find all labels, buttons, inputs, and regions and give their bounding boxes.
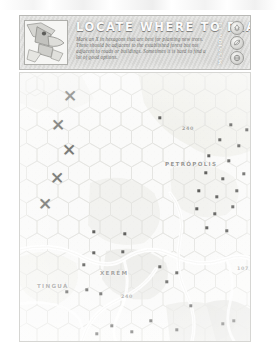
puzzle-page: LOCATE WHERE TO PLANT TREES Mark an X in… xyxy=(0,0,277,355)
map-marker xyxy=(204,171,207,174)
x-mark-2[interactable]: ✕ xyxy=(51,117,65,134)
map-marker xyxy=(231,205,234,208)
x-mark-5[interactable]: ✕ xyxy=(38,196,52,213)
map-marker xyxy=(213,212,216,215)
map-marker xyxy=(95,332,98,335)
badge-group xyxy=(226,19,247,66)
mission-banner: LOCATE WHERE TO PLANT TREES Mark an X in… xyxy=(19,15,251,70)
mission-label: MISSION 11 xyxy=(217,21,223,65)
instructions-text: Mark an X in hexagons that are best for … xyxy=(76,36,212,60)
map-marker xyxy=(218,138,221,141)
tree-badge[interactable] xyxy=(230,21,244,35)
map-marker xyxy=(121,250,124,253)
map-marker xyxy=(242,172,245,175)
page-top-edge-strip xyxy=(0,0,277,10)
map-marker xyxy=(195,207,198,210)
map-marker xyxy=(245,128,248,131)
x-mark-3[interactable]: ✕ xyxy=(62,142,76,159)
map-marker xyxy=(165,280,168,283)
road-number-240-south: 240 xyxy=(121,294,133,299)
mission-strip: MISSION 11 xyxy=(214,21,225,64)
map-marker xyxy=(229,123,232,126)
xerem-label: XERÉM xyxy=(100,270,128,276)
map-marker xyxy=(175,271,178,274)
map-terrain-layer xyxy=(20,73,250,341)
map-marker xyxy=(82,263,85,266)
map-marker xyxy=(205,226,208,229)
map-marker xyxy=(175,328,178,331)
map-marker xyxy=(123,232,126,235)
petropolis-label: PETRÓPOLIS xyxy=(165,161,217,167)
map-marker xyxy=(232,319,235,322)
map-marker xyxy=(149,319,152,322)
tingua-label: TINGUÁ xyxy=(37,283,69,289)
map-marker xyxy=(158,116,161,119)
map-marker xyxy=(158,265,161,268)
map-marker xyxy=(92,230,95,233)
map-marker xyxy=(85,288,88,291)
map-marker xyxy=(227,159,230,162)
map-marker xyxy=(99,292,102,295)
x-mark-1[interactable]: ✕ xyxy=(63,88,77,105)
map-marker xyxy=(225,229,228,232)
road-number-107: 107 xyxy=(237,266,249,271)
map-marker xyxy=(237,144,240,147)
hex-map[interactable]: ✕ ✕ ✕ ✕ ✕ xyxy=(19,72,251,342)
map-marker xyxy=(207,154,210,157)
page-title: LOCATE WHERE TO PLANT TREES xyxy=(76,21,212,33)
road-number-240-north: 240 xyxy=(182,126,194,131)
map-marker xyxy=(110,324,113,327)
map-marker xyxy=(92,251,95,254)
map-marker xyxy=(221,177,224,180)
toucan-mascot-icon xyxy=(24,20,68,65)
map-marker xyxy=(65,290,68,293)
map-marker xyxy=(189,304,192,307)
map-marker xyxy=(197,189,200,192)
map-marker xyxy=(221,322,224,325)
banner-text-block: LOCATE WHERE TO PLANT TREES Mark an X in… xyxy=(71,16,214,69)
map-marker xyxy=(235,189,238,192)
x-mark-4[interactable]: ✕ xyxy=(50,170,64,187)
globe-badge[interactable] xyxy=(230,51,244,65)
map-marker xyxy=(130,330,133,333)
leaf-badge[interactable] xyxy=(230,36,244,50)
map-marker xyxy=(215,195,218,198)
